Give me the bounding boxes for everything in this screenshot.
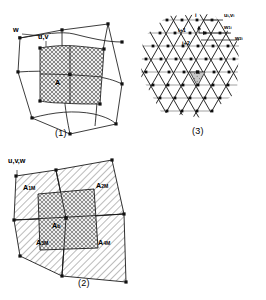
panel2-Ab-sub: b — [57, 223, 60, 229]
panel3-node-label-i-plus-2: i+2 — [182, 40, 190, 46]
panel2-A1M-sub: 1M — [28, 185, 35, 191]
panel3-label-w1i: w1i — [224, 24, 232, 30]
panel2-label-uvw: u,v,w — [8, 156, 25, 165]
panel3-label-ui-vi: ui,vi — [224, 12, 234, 18]
panel2-A3M-sub: 3M — [41, 240, 48, 246]
panel-2-caption: (2) — [78, 278, 90, 288]
panel2-label-Ab: Ab — [52, 221, 60, 230]
panel1-label-area-A: A — [55, 78, 60, 87]
panel3-label-v-sub: i — [233, 13, 234, 18]
panel2-A4M-sub: 4M — [103, 240, 110, 246]
panel3-label-w2i-sub: 2i — [239, 36, 242, 41]
panel-2: u,v,w A1M A2M A3M A4M Ab — [8, 148, 193, 300]
panel3-label-w2i: w2i — [235, 35, 243, 41]
figure-container: w u,v A (1) — [0, 0, 266, 300]
panel1-label-uv: u,v — [38, 32, 48, 41]
panel3-node-label-i-plus-1: i+1 — [178, 27, 186, 33]
panel2-label-A2M: A2M — [96, 181, 108, 190]
panel2-A2M-sub: 2M — [101, 183, 108, 189]
panel-1-caption: (1) — [55, 128, 67, 138]
panel2-label-A3M: A3M — [36, 238, 48, 247]
panel3-label-w1i-sub: 1i — [228, 25, 231, 30]
panel1-label-w: w — [13, 25, 19, 34]
panel2-label-A1M: A1M — [23, 183, 35, 192]
panel2-label-A4M: A4M — [98, 238, 110, 247]
panel-3-caption: (3) — [192, 126, 204, 136]
panel3-node-label-i: i — [195, 12, 197, 18]
